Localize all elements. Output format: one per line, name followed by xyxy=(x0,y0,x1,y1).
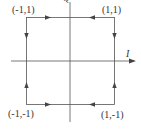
arrow-bottom-left-right xyxy=(45,102,51,106)
vertical-axis-label: Q xyxy=(63,0,70,3)
point-label-top-left: (-1,1) xyxy=(12,5,35,15)
arrow-left-down xyxy=(24,33,28,39)
arrow-top-left-right xyxy=(45,15,51,19)
arrow-right-down xyxy=(112,33,116,39)
arrow-left-up xyxy=(24,82,28,88)
horizontal-axis-arrowhead xyxy=(129,59,136,64)
arrow-bottom-right-left xyxy=(89,102,95,106)
point-label-bottom-right: (1,-1) xyxy=(101,110,124,120)
point-label-top-right: (1,1) xyxy=(102,5,121,15)
point-label-bottom-left: (-1,-1) xyxy=(8,109,34,119)
arrow-right-up xyxy=(112,82,116,88)
horizontal-axis-label: I xyxy=(126,49,129,59)
arrow-top-right-left xyxy=(89,15,95,19)
